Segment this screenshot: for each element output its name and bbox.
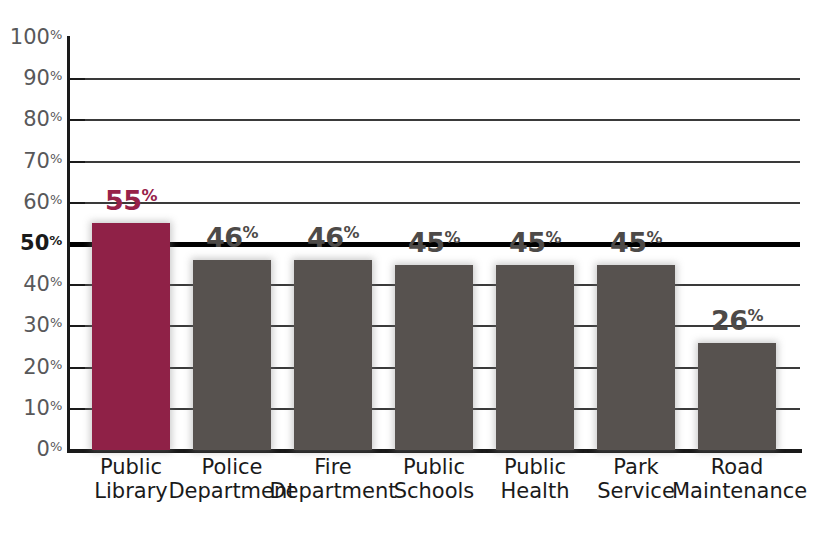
bar-value-label-5: 45% [488, 229, 582, 256]
y-axis-label-0: 0% [0, 439, 62, 460]
bar-1 [92, 223, 170, 450]
y-axis-label-30: 30% [0, 315, 62, 336]
bar-value-label-1: 55% [84, 187, 178, 214]
y-axis-label-100: 100% [0, 27, 62, 48]
y-axis-label-20: 20% [0, 357, 62, 378]
y-tick-40 [68, 284, 85, 286]
y-axis-label-90: 90% [0, 68, 62, 89]
bar-value-label-7: 26% [690, 307, 784, 334]
y-axis-label-40: 40% [0, 274, 62, 295]
y-axis-line [67, 36, 70, 452]
y-tick-30 [68, 325, 85, 327]
y-tick-80 [68, 119, 85, 121]
y-tick-70 [68, 161, 85, 163]
bar-value-label-2: 46% [185, 224, 279, 251]
bar-value-label-4: 45% [387, 229, 481, 256]
y-axis-label-10: 10% [0, 398, 62, 419]
bar-value-label-3: 46% [286, 224, 380, 251]
gridline-70 [68, 161, 800, 163]
bar-chart: 100%90%80%70%60%50%40%30%20%10%0% 55%46%… [0, 0, 820, 533]
y-tick-60 [68, 202, 85, 204]
bar-7 [698, 343, 776, 450]
bar-4 [395, 265, 473, 450]
gridline-90 [68, 78, 800, 80]
bar-5 [496, 265, 574, 450]
y-axis-label-50: 50% [0, 233, 62, 254]
bar-3 [294, 260, 372, 450]
y-tick-90 [68, 78, 85, 80]
y-tick-50 [68, 242, 88, 247]
bar-value-label-6: 45% [589, 229, 683, 256]
plot-area: 100%90%80%70%60%50%40%30%20%10%0% 55%46%… [0, 0, 820, 533]
category-label-7: RoadMaintenance [672, 456, 802, 503]
bar-2 [193, 260, 271, 450]
y-axis-label-70: 70% [0, 151, 62, 172]
y-tick-10 [68, 408, 85, 410]
gridline-80 [68, 119, 800, 121]
y-axis-label-60: 60% [0, 192, 62, 213]
y-axis-label-80: 80% [0, 109, 62, 130]
bar-6 [597, 265, 675, 450]
y-tick-20 [68, 367, 85, 369]
